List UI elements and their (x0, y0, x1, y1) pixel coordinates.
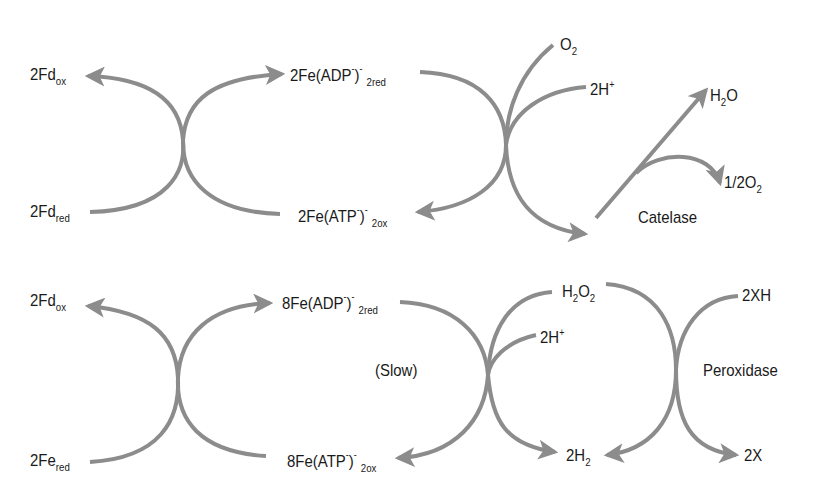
arrow-fe-red-to-fd-ox (88, 306, 178, 462)
label-h2o2: H2O2 (562, 283, 595, 304)
label-h-plus-top: 2H+ (590, 80, 614, 98)
label-fe-red-bottom: 2Fered (30, 452, 70, 473)
arrow-h-in (506, 87, 586, 145)
label-h-plus-bottom: 2H+ (540, 328, 564, 346)
arrow-fe-adp-to-h2 (400, 302, 555, 452)
arrow-catalase-h2o (596, 90, 706, 218)
label-x: 2X (744, 447, 762, 464)
arrow-catalase-half-o2 (636, 157, 720, 183)
arrow-to-fe-atp-bottom (398, 375, 488, 458)
label-xh: 2XH (742, 287, 771, 304)
label-fe-atp-bottom: 8Fe(ATP-)- 2ox (287, 450, 376, 474)
label-fe-adp-bottom: 8Fe(ADP-)- 2red (282, 292, 378, 316)
label-fd-ox-bottom: 2Fdox (30, 292, 66, 313)
label-half-o2: 1/2O2 (724, 174, 762, 195)
arrow-fe-atp-to-fe-adp-bottom (178, 303, 270, 456)
label-slow: (Slow) (375, 362, 417, 379)
arrow-to-catalase (506, 145, 585, 234)
arrow-h2o2-to-h2 (606, 284, 676, 455)
label-o2: O2 (560, 36, 577, 57)
label-h2: 2H2 (566, 447, 591, 468)
arrow-fd-red-to-fd-ox (88, 76, 183, 212)
label-peroxidase: Peroxidase (703, 362, 778, 379)
label-fe-adp-top: 2Fe(ADP-)- 2red (290, 64, 386, 88)
arrow-fe-atp-to-fe-adp (183, 74, 282, 214)
reaction-diagram (0, 0, 813, 490)
label-fd-ox-top: 2Fdox (30, 66, 66, 87)
arrow-fe-adp-to-fe-atp (418, 72, 506, 212)
label-fd-red-top: 2Fdred (30, 203, 70, 224)
label-catalase: Catelase (638, 209, 697, 226)
label-h2o: H2O (710, 87, 738, 108)
label-fe-atp-top: 2Fe(ATP-)- 2ox (298, 205, 387, 229)
